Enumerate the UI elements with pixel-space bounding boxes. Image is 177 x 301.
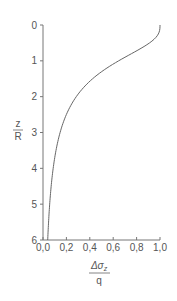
y-label-denominator: R bbox=[14, 131, 21, 142]
x-axis-label: Δσz q bbox=[89, 260, 110, 286]
y-tick-label: 4 bbox=[31, 163, 37, 174]
x-tick-label: 1,0 bbox=[153, 242, 167, 253]
x-label-numerator: Δσz bbox=[90, 260, 108, 272]
y-tick-label: 3 bbox=[31, 127, 37, 138]
x-tick-label: 0,6 bbox=[106, 242, 120, 253]
x-tick-label: 0,0 bbox=[36, 242, 50, 253]
y-tick-label: 0 bbox=[31, 20, 37, 31]
data-curve bbox=[48, 25, 160, 240]
y-tick-label: 5 bbox=[31, 199, 37, 210]
y-tick-label: 2 bbox=[31, 91, 37, 102]
stress-depth-chart: 0123456 0,00,20,40,60,81,0 z R Δσz q bbox=[0, 0, 177, 301]
x-tick-label: 0,4 bbox=[83, 242, 97, 253]
y-axis-ticks: 0123456 bbox=[31, 20, 43, 246]
x-tick-label: 0,8 bbox=[130, 242, 144, 253]
y-axis-label: z R bbox=[13, 118, 23, 142]
y-tick-label: 1 bbox=[31, 55, 37, 66]
x-label-denominator: q bbox=[96, 275, 102, 286]
y-label-numerator: z bbox=[16, 118, 21, 129]
x-axis-ticks: 0,00,20,40,60,81,0 bbox=[36, 237, 167, 253]
x-tick-label: 0,2 bbox=[59, 242, 73, 253]
